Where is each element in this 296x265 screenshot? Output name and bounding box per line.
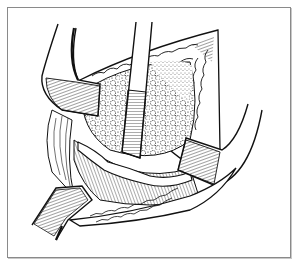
lower-left-retractor: [32, 186, 92, 240]
surgical-illustration: [0, 0, 296, 265]
upper-left-retractor: [42, 24, 100, 116]
left-tissue-wall: [47, 110, 74, 196]
